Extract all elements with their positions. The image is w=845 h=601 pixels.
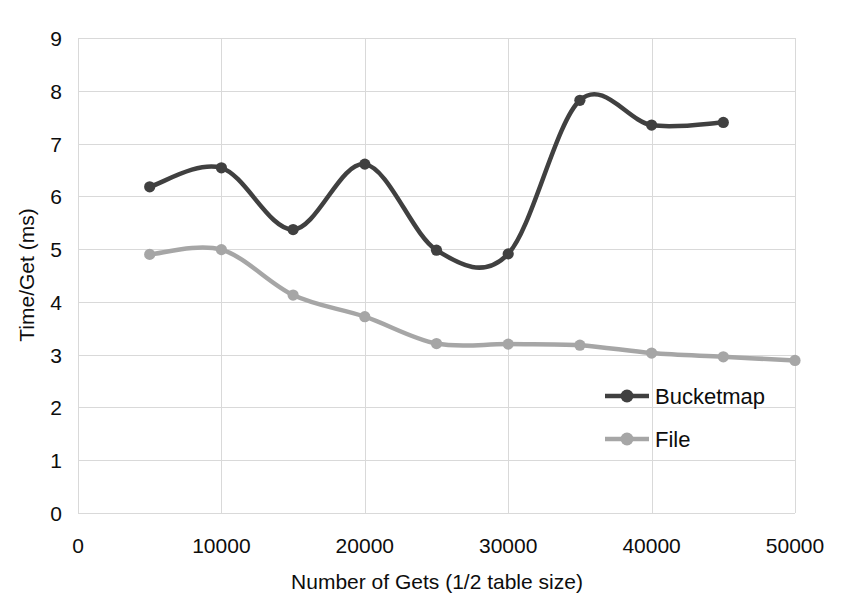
data-point (288, 289, 299, 300)
data-point (144, 181, 155, 192)
x-axis-tick-label: 0 (72, 534, 84, 557)
data-point (431, 245, 442, 256)
x-axis-tick-label: 10000 (192, 534, 250, 557)
data-point (431, 338, 442, 349)
data-point (216, 162, 227, 173)
legend-marker-dot (621, 390, 634, 403)
data-point (359, 159, 370, 170)
legend-label: File (655, 427, 690, 452)
data-point (288, 224, 299, 235)
y-axis-tick-label: 3 (50, 344, 62, 367)
data-point (646, 347, 657, 358)
x-axis-tick-label: 30000 (479, 534, 537, 557)
y-axis-tick-label: 5 (50, 238, 62, 261)
x-axis-title: Number of Gets (1/2 table size) (291, 570, 583, 593)
data-point (574, 340, 585, 351)
data-point (718, 117, 729, 128)
chart-background (0, 0, 845, 601)
y-axis-tick-label: 4 (50, 291, 62, 314)
y-axis-tick-label: 0 (50, 502, 62, 525)
data-point (359, 311, 370, 322)
data-point (789, 355, 800, 366)
data-point (216, 244, 227, 255)
data-point (503, 339, 514, 350)
data-point (718, 351, 729, 362)
y-axis-title: Time/Get (ms) (15, 208, 38, 341)
y-axis-tick-label: 9 (50, 27, 62, 50)
y-axis-tick-label: 1 (50, 449, 62, 472)
x-axis-tick-label: 40000 (622, 534, 680, 557)
data-point (646, 119, 657, 130)
y-axis-tick-label: 8 (50, 80, 62, 103)
chart-canvas: 0123456789 01000020000300004000050000 Bu… (0, 0, 845, 601)
y-axis-tick-label: 2 (50, 396, 62, 419)
y-axis-tick-label: 7 (50, 133, 62, 156)
legend-label: Bucketmap (655, 384, 765, 409)
x-axis-tick-label: 50000 (766, 534, 824, 557)
legend-marker-dot (621, 433, 634, 446)
data-point (503, 248, 514, 259)
data-point (144, 249, 155, 260)
y-axis-tick-label: 6 (50, 185, 62, 208)
line-chart: 0123456789 01000020000300004000050000 Bu… (0, 0, 845, 601)
data-point (574, 95, 585, 106)
x-axis-tick-label: 20000 (336, 534, 394, 557)
